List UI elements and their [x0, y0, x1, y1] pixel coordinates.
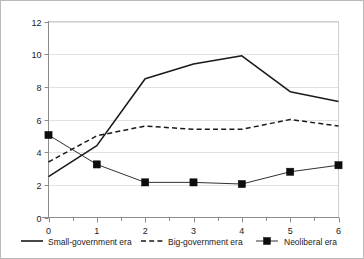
x-axis-tick-label: 1	[94, 226, 99, 236]
x-axis-tick-labels: 0123456	[46, 226, 341, 236]
data-point-marker	[190, 179, 197, 186]
legend-marker-neoliberal-era	[264, 238, 271, 245]
series-line-neoliberal-era	[49, 135, 339, 184]
data-point-marker	[287, 168, 294, 175]
data-point-marker	[45, 131, 52, 138]
y-axis-tick-label: 8	[36, 83, 41, 93]
series-line-big-government-era	[49, 120, 339, 162]
data-point-marker	[142, 179, 149, 186]
x-axis-ticks	[50, 218, 340, 223]
y-axis-tick-labels: 024681012	[31, 18, 41, 224]
y-axis-tick-label: 6	[36, 116, 41, 126]
legend: Small-government era Big-government era …	[21, 237, 337, 247]
line-chart: 024681012 0123456 Small-government era B…	[1, 1, 364, 259]
y-axis-tick-label: 0	[36, 214, 41, 224]
x-axis-tick-label: 0	[46, 226, 51, 236]
x-axis-tick-label: 3	[191, 226, 196, 236]
x-axis-tick-label: 4	[239, 226, 244, 236]
legend-label-big-government-era: Big-government era	[168, 237, 243, 247]
y-axis-tick-label: 12	[31, 18, 41, 28]
x-axis-tick-label: 6	[336, 226, 341, 236]
y-axis-ticks	[45, 23, 49, 219]
chart-container: 024681012 0123456 Small-government era B…	[0, 0, 364, 259]
x-axis-tick-label: 2	[143, 226, 148, 236]
data-point-marker	[93, 161, 100, 168]
legend-label-small-government-era: Small-government era	[48, 237, 132, 247]
x-axis-tick-label: 5	[288, 226, 293, 236]
y-axis-tick-label: 4	[36, 148, 41, 158]
y-axis-tick-label: 2	[36, 181, 41, 191]
y-axis-tick-label: 10	[31, 50, 41, 60]
series-line-small-government-era	[49, 56, 339, 177]
data-point-marker	[238, 180, 245, 187]
data-point-marker	[335, 162, 342, 169]
legend-label-neoliberal-era: Neoliberal era	[284, 237, 337, 247]
